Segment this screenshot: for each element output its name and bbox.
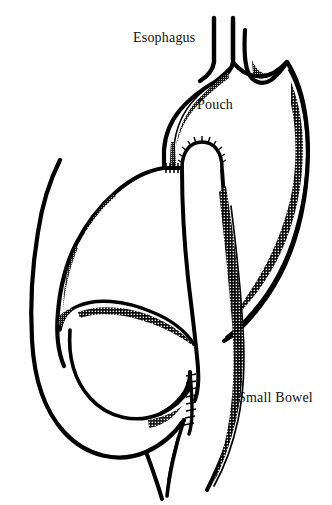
label-pouch: Pouch — [197, 97, 233, 112]
label-esophagus: Esophagus — [133, 30, 195, 45]
label-small-bowel: Small Bowel — [238, 390, 313, 405]
canvas-background — [0, 0, 332, 505]
gastric-bypass-diagram: Esophagus Pouch Small Bowel — [0, 0, 332, 505]
anatomy-illustration: Esophagus Pouch Small Bowel — [0, 0, 332, 505]
